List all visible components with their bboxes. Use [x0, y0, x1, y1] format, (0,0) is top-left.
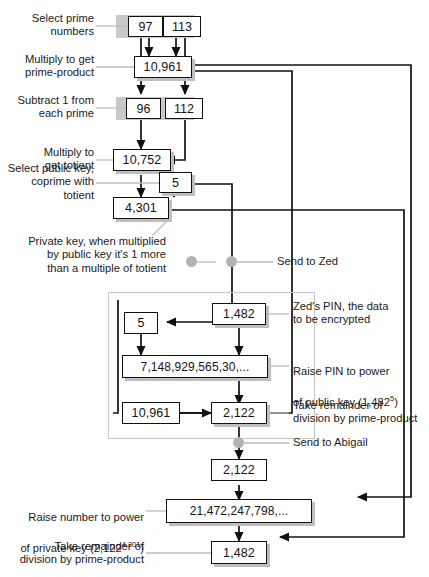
send-to-zed-dot-right [226, 256, 237, 267]
caption-take-remainder-decrypt: Take remainder of division by prime-prod… [2, 540, 144, 567]
caption-select-primes: Select prime numbers [10, 12, 94, 39]
node-cipher-received[interactable]: 2,122 [211, 459, 267, 481]
node-public-key-zed[interactable]: 5 [124, 312, 158, 334]
caption-zed-pin: Zed's PIN, the data to be encrypted [293, 300, 413, 327]
node-pin-powered[interactable]: 7,148,929,565,30,... [122, 355, 268, 378]
leader-lines [0, 0, 429, 577]
node-cipher-powered[interactable]: 21,472,247,798,... [166, 499, 312, 523]
node-prime-b-minus-one[interactable]: 112 [165, 98, 203, 119]
send-to-zed-dot-left [186, 256, 197, 267]
node-prime-product[interactable]: 10,961 [134, 56, 192, 78]
rsa-flowchart: 97 113 10,961 96 112 10,752 5 4,301 5 1,… [0, 0, 429, 577]
node-prime-a-minus-one[interactable]: 96 [126, 98, 161, 119]
caption-take-remainder-encrypt: Take remainder of division by prime-prod… [293, 399, 429, 426]
caption-select-public-key: Select public key, coprime with totient [2, 162, 94, 202]
send-to-abigail-dot [233, 437, 244, 448]
caption-raise-private-line1: Raise number to power [28, 511, 144, 523]
node-decrypted-pin[interactable]: 1,482 [211, 541, 267, 564]
caption-multiply-primes: Multiply to get prime-product [2, 53, 94, 80]
caption-send-to-abigail: Send to Abigail [293, 436, 413, 449]
node-public-key[interactable]: 5 [159, 172, 192, 193]
caption-private-key-note: Private key, when multiplied by public k… [4, 235, 166, 275]
caption-subtract-one: Subtract 1 from each prime [2, 94, 94, 121]
node-cipher[interactable]: 2,122 [211, 402, 267, 424]
node-private-key[interactable]: 4,301 [113, 197, 169, 219]
node-totient[interactable]: 10,752 [113, 149, 171, 171]
node-prime-product-zed[interactable]: 10,961 [122, 402, 180, 424]
node-prime-a[interactable]: 97 [128, 16, 163, 37]
caption-send-to-zed: Send to Zed [277, 255, 387, 268]
caption-raise-pin-line1: Raise PIN to power [293, 365, 389, 377]
node-pin[interactable]: 1,482 [212, 303, 266, 325]
node-prime-b[interactable]: 113 [163, 16, 201, 37]
